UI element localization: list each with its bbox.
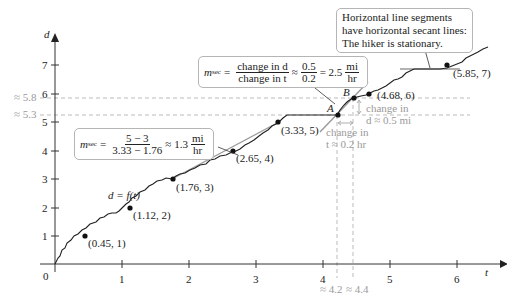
point-label-1: (0.45, 1) <box>88 237 126 250</box>
tick-label-d7: 7 <box>42 59 48 71</box>
m-symbol: m <box>80 138 88 150</box>
point-label-5: (3.33, 5) <box>281 124 319 137</box>
value-denominator: 0.2 <box>302 73 316 84</box>
note-line-2: have horizontal secant lines: <box>342 24 467 37</box>
ref-label-4.4: ≈ 4.4 <box>346 283 369 295</box>
approx-sign: ≈ <box>292 66 298 78</box>
m-symbol: m <box>204 66 212 78</box>
secant-slope-callout-2: msec = change in dchange in t ≈ 0.50.2 =… <box>198 56 368 88</box>
m-subscript: sec <box>88 140 97 148</box>
point-label-6: (4.68, 6) <box>377 89 415 102</box>
ref-label-4.2: ≈ 4.2 <box>320 283 343 295</box>
tick-label-d6: 6 <box>42 88 48 100</box>
unit-numerator: mi <box>191 133 205 145</box>
tick-label-t5: 5 <box>387 273 393 285</box>
unit-denominator: hr <box>348 73 357 84</box>
tick-label-t3: 3 <box>253 273 259 285</box>
point-A-label: A <box>326 102 334 114</box>
curve-label: d = f(t) <box>108 189 140 202</box>
tick-label-t6: 6 <box>454 273 460 285</box>
ref-label-5.8: ≈ 5.8 <box>14 91 37 103</box>
tick-label-t2: 2 <box>186 273 192 285</box>
tick-label-t1: 1 <box>119 273 125 285</box>
value-numerator: 0.5 <box>301 61 317 73</box>
t-axis-arrow-icon <box>500 260 507 268</box>
unit-fraction: mihr <box>191 133 205 156</box>
point-label-3: (1.76, 3) <box>176 181 214 194</box>
tick-label-d5: 5 <box>42 116 48 128</box>
fraction-denominator: change in t <box>238 73 286 84</box>
equals-sign: = <box>224 66 230 78</box>
note-line-3: The hiker is stationary. <box>342 37 467 50</box>
value-fraction: 0.50.2 <box>301 61 317 84</box>
change-fraction: change in dchange in t <box>236 61 289 84</box>
change-t-arrow-icon <box>338 121 353 125</box>
change-d-line2: d ≈ 0.5 mi <box>366 114 411 126</box>
ref-label-5.3: ≈ 5.3 <box>14 108 37 120</box>
tick-label-d3: 3 <box>42 173 48 185</box>
tick-label-0: 0 <box>43 270 49 282</box>
d-axis-arrow-icon <box>51 33 59 42</box>
t-axis-label: t <box>485 266 489 278</box>
fraction-denominator: 3.33 − 1.76 <box>112 145 162 156</box>
change-t-line2: t ≈ 0.2 hr <box>326 138 367 150</box>
change-d-arrow-icon <box>357 100 361 114</box>
point-label-4: (2.65, 4) <box>236 152 274 165</box>
slope-value: ≈ 1.3 <box>165 138 188 150</box>
tick-label-d4: 4 <box>42 145 48 157</box>
tick-label-d2: 2 <box>42 202 48 214</box>
slope-value: = 2.5 <box>320 66 343 78</box>
note-line-1: Horizontal line segments <box>342 11 467 24</box>
d-axis-label: d <box>44 28 50 40</box>
tick-label-d1: 1 <box>42 230 48 242</box>
change-d-line1: change in <box>366 102 409 114</box>
fraction-numerator: change in d <box>236 61 289 73</box>
m-subscript: sec <box>212 68 221 76</box>
unit-fraction: mihr <box>345 61 359 84</box>
unit-numerator: mi <box>345 61 359 73</box>
unit-denominator: hr <box>193 145 202 156</box>
equals-sign: = <box>100 138 106 150</box>
change-t-line1: change in <box>326 126 369 138</box>
point-label-7: (5.85, 7) <box>453 67 491 80</box>
slope-fraction: 5 − 33.33 − 1.76 <box>112 133 162 156</box>
secant-slope-callout-1: msec = 5 − 33.33 − 1.76 ≈ 1.3 mihr <box>74 128 214 160</box>
point-label-2: (1.12, 2) <box>133 209 171 222</box>
horizontal-segment-note: Horizontal line segments have horizontal… <box>336 8 473 53</box>
fraction-numerator: 5 − 3 <box>125 133 150 145</box>
